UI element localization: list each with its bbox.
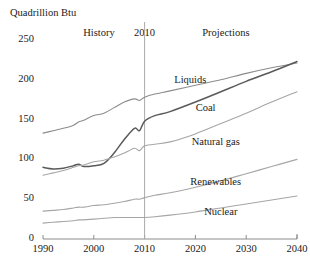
x-tick-label: 2020: [175, 243, 215, 254]
energy-consumption-chart: Quadrillion Btu History 2010 Projections…: [0, 0, 310, 270]
y-tick-label: 200: [8, 73, 34, 84]
plot-area: [0, 0, 310, 270]
y-tick-label: 250: [8, 33, 34, 44]
x-tick-label: 2030: [226, 243, 266, 254]
series-label-coal: Coal: [196, 102, 216, 113]
series-label-renewables: Renewables: [190, 176, 241, 187]
series-label-liquids: Liquids: [174, 74, 206, 85]
y-tick-label: 150: [8, 113, 34, 124]
series-line-renewables: [43, 159, 297, 211]
series-label-nuclear: Nuclear: [204, 206, 237, 217]
series-line-liquids: [43, 63, 297, 133]
y-tick-label: 0: [8, 232, 34, 243]
x-tick-label: 2040: [277, 243, 310, 254]
series-line-nuclear: [43, 196, 297, 223]
y-tick-label: 100: [8, 152, 34, 163]
x-tick-label: 2010: [125, 243, 165, 254]
x-tick-label: 1990: [23, 243, 63, 254]
series-line-coal: [43, 61, 297, 169]
series-line-natural-gas: [43, 92, 297, 176]
series-label-natural-gas: Natural gas: [192, 136, 240, 147]
y-tick-label: 50: [8, 192, 34, 203]
x-tick-label: 2000: [74, 243, 114, 254]
